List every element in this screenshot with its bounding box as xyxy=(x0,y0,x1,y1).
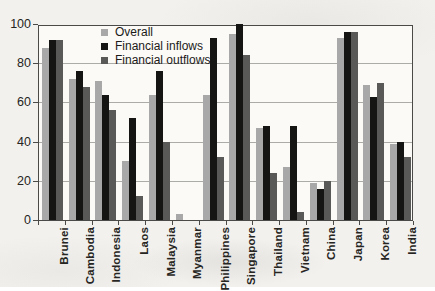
bar xyxy=(95,81,102,220)
x-axis-tick xyxy=(279,221,280,225)
bar xyxy=(69,79,76,220)
legend-swatch-financial-outflows xyxy=(101,57,108,64)
x-axis-label: Myanmar xyxy=(191,227,203,279)
y-axis-tick xyxy=(33,63,38,64)
x-axis-label: Indonesia xyxy=(111,227,123,282)
x-axis-label: Thailand xyxy=(272,227,284,276)
x-axis-tick xyxy=(199,221,200,225)
bar xyxy=(203,95,210,220)
bar xyxy=(290,126,297,220)
bar xyxy=(136,196,143,220)
bar xyxy=(344,32,351,220)
x-axis-label: China xyxy=(325,227,337,260)
y-axis-label: 60 xyxy=(0,95,31,110)
bar xyxy=(404,157,411,220)
legend-swatch-overall xyxy=(101,29,108,36)
legend-swatch-financial-inflows xyxy=(101,43,108,50)
bar xyxy=(270,173,277,220)
x-axis-tick xyxy=(359,221,360,225)
plot-area xyxy=(38,25,413,221)
x-axis-label: Singapore xyxy=(245,227,257,285)
x-axis-label: Japan xyxy=(352,227,364,261)
bar xyxy=(122,161,129,220)
bar xyxy=(243,55,250,220)
legend-label-overall: Overall xyxy=(115,27,153,38)
legend-item-overall: Overall xyxy=(101,27,210,38)
x-axis-label: India xyxy=(406,227,418,255)
x-axis-label: Cambodia xyxy=(84,227,96,284)
x-axis-tick xyxy=(92,221,93,225)
x-axis-label: Philippines xyxy=(218,227,230,291)
x-axis-tick xyxy=(386,221,387,225)
legend-item-financial-outflows: Financial outflows xyxy=(101,55,210,66)
bar xyxy=(217,157,224,220)
bar xyxy=(377,83,384,220)
bar xyxy=(229,34,236,220)
bar xyxy=(163,142,170,220)
bar xyxy=(263,126,270,220)
y-axis-label: 20 xyxy=(0,174,31,189)
y-axis-tick xyxy=(33,24,38,25)
y-axis-tick xyxy=(33,102,38,103)
x-axis-label: Laos xyxy=(138,227,150,255)
x-axis-tick xyxy=(333,221,334,225)
bar xyxy=(149,95,156,220)
x-axis-tick xyxy=(306,221,307,225)
x-axis-tick xyxy=(413,221,414,225)
bar xyxy=(337,38,344,220)
bar xyxy=(317,189,324,220)
x-axis-label: Vietnam xyxy=(298,227,310,273)
x-axis-tick xyxy=(118,221,119,225)
bar xyxy=(83,87,90,220)
x-axis-tick xyxy=(65,221,66,225)
bar xyxy=(129,118,136,220)
bar xyxy=(310,183,317,220)
x-axis-tick xyxy=(172,221,173,225)
legend-label-financial-outflows: Financial outflows xyxy=(115,55,210,66)
bar xyxy=(283,167,290,220)
x-axis-label: Brunei xyxy=(57,227,69,265)
bar xyxy=(109,110,116,220)
bar xyxy=(351,32,358,220)
y-axis-tick xyxy=(33,181,38,182)
x-axis-tick xyxy=(145,221,146,225)
bar xyxy=(256,128,263,220)
bar xyxy=(363,85,370,220)
bar xyxy=(397,142,404,220)
x-axis-tick xyxy=(252,221,253,225)
x-axis-label: Malaysia xyxy=(165,227,177,277)
legend-label-financial-inflows: Financial inflows xyxy=(115,41,203,52)
y-axis-tick xyxy=(33,142,38,143)
bar xyxy=(42,48,49,220)
bar xyxy=(176,214,183,220)
bar xyxy=(297,212,304,220)
bar xyxy=(56,40,63,220)
y-axis-label: 40 xyxy=(0,135,31,150)
bar xyxy=(156,71,163,220)
x-axis-tick xyxy=(38,221,39,225)
x-axis-label: Korea xyxy=(379,227,391,261)
bar xyxy=(49,40,56,220)
y-axis-label: 80 xyxy=(0,56,31,71)
bar xyxy=(210,38,217,220)
bar xyxy=(236,24,243,220)
bar xyxy=(370,97,377,220)
y-axis-label: 0 xyxy=(0,213,31,228)
bar xyxy=(76,71,83,220)
bar xyxy=(102,95,109,220)
bar xyxy=(390,144,397,220)
x-axis-tick xyxy=(226,221,227,225)
legend: Overall Financial inflows Financial outf… xyxy=(101,27,210,66)
bar xyxy=(324,181,331,220)
legend-item-financial-inflows: Financial inflows xyxy=(101,41,210,52)
y-axis-label: 100 xyxy=(0,17,31,32)
